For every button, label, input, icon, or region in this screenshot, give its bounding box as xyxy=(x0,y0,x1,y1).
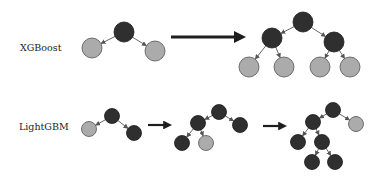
xgboost-label: XGBoost xyxy=(20,42,61,53)
leaf-node xyxy=(349,117,364,132)
leaf-node xyxy=(340,57,360,77)
split-node xyxy=(315,135,330,150)
leaf-node xyxy=(274,57,294,77)
split-node xyxy=(328,155,343,170)
split-node xyxy=(212,105,227,120)
leaf-node xyxy=(145,41,165,61)
split-node xyxy=(262,28,282,48)
split-node xyxy=(306,115,321,130)
split-node xyxy=(191,116,206,131)
split-node xyxy=(324,32,344,52)
split-node xyxy=(114,22,134,42)
diagram-canvas xyxy=(0,0,379,183)
split-node xyxy=(293,12,313,32)
split-node xyxy=(233,118,248,133)
split-node xyxy=(127,126,142,141)
split-node xyxy=(105,109,120,124)
split-node xyxy=(175,136,190,151)
lightgbm-label: LightGBM xyxy=(19,121,69,132)
leaf-node xyxy=(310,57,330,77)
leaf-node xyxy=(199,136,214,151)
leaf-node xyxy=(82,122,97,137)
leaf-node xyxy=(239,57,259,77)
split-node xyxy=(291,135,306,150)
split-node xyxy=(305,155,320,170)
split-node xyxy=(326,103,341,118)
leaf-node xyxy=(82,38,102,58)
